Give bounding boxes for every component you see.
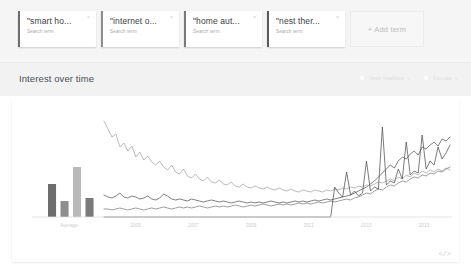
embed-code-icon[interactable]: </> (438, 250, 451, 258)
search-term-card-3[interactable]: "home aut... Search term × (184, 11, 262, 47)
interest-over-time-chart[interactable]: Average200520072009201120132015 (12, 99, 459, 262)
close-icon[interactable]: × (334, 14, 341, 21)
search-term-card-1[interactable]: "smart ho... Search term × (18, 11, 96, 47)
axis-tick-label: 2007 (188, 223, 199, 228)
forecast-label: Forecast (433, 76, 452, 81)
forecast-toggle[interactable]: Forecast ▾ (422, 74, 457, 82)
search-term-card-2[interactable]: "internet o... Search term × (101, 11, 179, 47)
axis-tick-label: Average (60, 223, 78, 228)
search-term-card-4[interactable]: "nest ther... Search term × (267, 11, 345, 47)
add-term-button[interactable]: + Add term (350, 11, 424, 47)
search-term-title: "nest ther... (276, 16, 339, 26)
search-terms-strip: "smart ho... Search term × "internet o..… (18, 11, 424, 47)
search-term-title: "smart ho... (27, 16, 90, 26)
close-icon[interactable]: × (85, 14, 92, 21)
axis-tick-label: 2009 (246, 223, 257, 228)
axis-tick-label: 2013 (361, 223, 372, 228)
chevron-down-icon: ▾ (455, 76, 457, 81)
search-term-title: "home aut... (193, 16, 256, 26)
search-term-subtitle: Search term (276, 28, 339, 35)
page-title: Interest over time (19, 73, 94, 84)
header-tools: News headlines ▾ Forecast ▾ (358, 74, 457, 82)
series-line[interactable] (104, 127, 450, 217)
search-term-title: "internet o... (110, 16, 173, 26)
average-bars-group (48, 167, 94, 217)
forecast-toggle-icon (422, 74, 430, 82)
axis-group: Average200520072009201120132015 (32, 217, 452, 228)
average-bar[interactable] (48, 184, 56, 217)
series-line[interactable] (104, 167, 450, 210)
google-trends-interest-over-time: "smart ho... Search term × "internet o..… (0, 0, 471, 275)
chevron-down-icon: ▾ (407, 76, 409, 81)
axis-tick-label: 2005 (130, 223, 141, 228)
axis-tick-label: 2015 (419, 223, 430, 228)
axis-tick-label: 2011 (304, 223, 315, 228)
average-bar[interactable] (61, 201, 69, 217)
close-icon[interactable]: × (251, 14, 258, 21)
chart-svg: Average200520072009201120132015 (12, 99, 459, 262)
search-terms-bar: "smart ho... Search term × "internet o..… (0, 0, 471, 62)
close-icon[interactable]: × (168, 14, 175, 21)
search-term-subtitle: Search term (27, 28, 90, 35)
news-headlines-label: News headlines (369, 76, 404, 81)
search-term-subtitle: Search term (193, 28, 256, 35)
section-header: Interest over time News headlines ▾ Fore… (0, 62, 471, 96)
news-toggle-icon (358, 74, 366, 82)
series-line[interactable] (104, 121, 450, 192)
search-term-subtitle: Search term (110, 28, 173, 35)
average-bar[interactable] (86, 198, 94, 217)
average-bar[interactable] (73, 167, 81, 217)
series-lines-group (104, 121, 450, 217)
chart-panel: Average200520072009201120132015 </> (12, 99, 459, 262)
news-headlines-toggle[interactable]: News headlines ▾ (358, 74, 409, 82)
